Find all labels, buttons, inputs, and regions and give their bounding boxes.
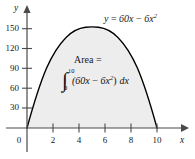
x-tick-label-4: 4 [71,136,87,145]
y-axis-label: y [14,4,18,14]
integral-upper-limit: 10 [68,68,75,75]
integrand-close: ) [113,75,116,86]
equation-term2-base: 6x [144,13,153,24]
equation-equals: = [111,13,117,24]
y-tick-label-60: 60 [0,84,19,93]
integral-lower-limit: 0 [64,85,67,92]
y-tick-label-150: 150 [0,24,19,33]
y-tick-label-30: 30 [0,103,19,112]
y-tick-label-90: 90 [0,64,19,73]
y-tick-label-120: 120 [0,44,19,53]
x-tick-label-6: 6 [97,136,113,145]
equation-minus: − [136,13,142,24]
integrand-expression: (60x − 6x2) [72,75,116,86]
x-tick-label-2: 2 [45,136,61,145]
x-tick-label-0: 0 [11,136,27,145]
integral-expression: ∫ 10 0 (60x − 6x2) dx [62,70,129,91]
x-tick-label-10: 10 [149,136,165,145]
integrand-open: (60x [72,75,90,86]
area-annotation-label: Area = [74,55,102,65]
integral-sign-group: ∫ 10 0 [62,70,71,91]
equation-lhs: y [104,13,108,24]
equation-term2-exponent: 2 [154,12,157,19]
y-axis-arrowhead [23,5,30,13]
differential-dx: dx [119,75,128,86]
x-tick-label-8: 8 [123,136,139,145]
figure-canvas: y x 150 120 90 60 30 0 2 4 6 8 10 y = 60… [0,0,195,159]
function-equation-label: y = 60x − 6x2 [104,14,157,24]
integrand-term-base: 6x [100,75,109,86]
x-axis-arrowhead [181,124,189,132]
integrand-minus: − [92,75,98,86]
x-axis-label: x [180,136,184,146]
equation-term1: 60x [119,13,133,24]
